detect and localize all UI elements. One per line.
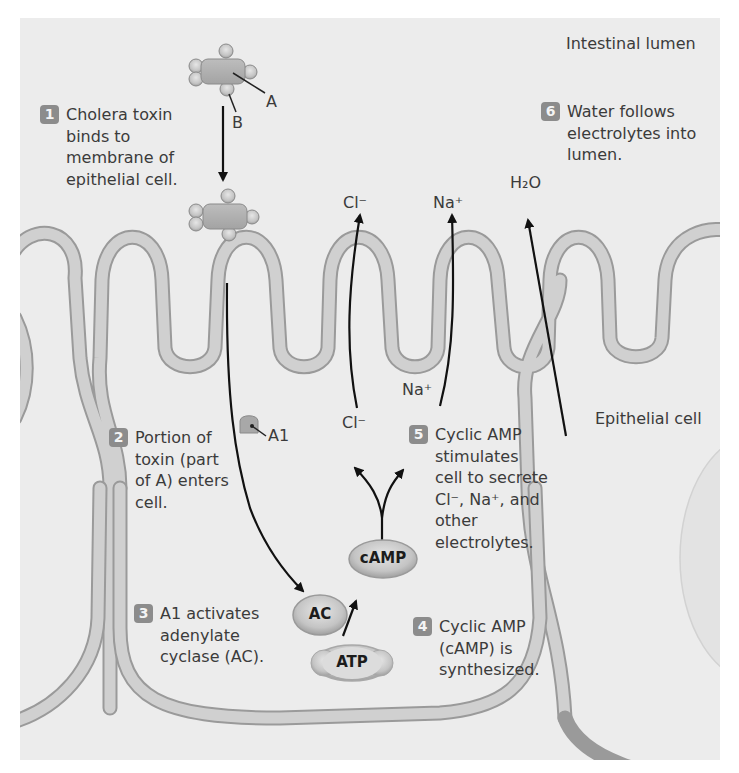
sodium-out-label: Na⁺	[433, 193, 463, 213]
step-3: 3 A1 activates adenylate cyclase (AC).	[134, 603, 284, 668]
cholera-toxin-diagram: Intestinal lumen Epithelial cell A B A1 …	[20, 18, 720, 760]
step-badge-3: 3	[134, 604, 153, 623]
step-text-5: Cyclic AMP stimulates cell to secrete Cl…	[435, 424, 549, 553]
step-badge-1: 1	[40, 105, 59, 124]
epithelial-cell-label: Epithelial cell	[595, 409, 702, 429]
sodium-in-label: Na⁺	[402, 380, 432, 400]
step-1: 1 Cholera toxin binds to membrane of epi…	[40, 104, 180, 190]
nucleus-shape	[680, 433, 720, 683]
step-badge-6: 6	[541, 102, 560, 121]
step-text-2: Portion of toxin (part of A) enters cell…	[135, 427, 229, 513]
step-4: 4 Cyclic AMP (cAMP) is synthesized.	[413, 616, 543, 681]
step-5: 5 Cyclic AMP stimulates cell to secrete …	[409, 424, 549, 553]
water-out-label: H₂O	[510, 173, 541, 193]
step-text-3: A1 activates adenylate cyclase (AC).	[160, 603, 284, 668]
step-badge-5: 5	[409, 425, 428, 444]
step-text-4: Cyclic AMP (cAMP) is synthesized.	[439, 616, 543, 681]
step-badge-2: 2	[109, 428, 128, 447]
intestinal-lumen-label: Intestinal lumen	[566, 34, 696, 54]
camp-label: cAMP	[349, 549, 417, 567]
step-badge-4: 4	[413, 617, 432, 636]
step-text-1: Cholera toxin binds to membrane of epith…	[66, 104, 180, 190]
atp-label: ATP	[322, 653, 382, 671]
chloride-in-label: Cl⁻	[342, 413, 366, 433]
step-2: 2 Portion of toxin (part of A) enters ce…	[109, 427, 229, 513]
chloride-out-label: Cl⁻	[343, 193, 367, 213]
step-6: 6 Water follows electrolytes into lumen.	[541, 101, 701, 166]
a1-fragment	[240, 416, 266, 436]
cholera-toxin-free	[189, 44, 265, 112]
step-text-6: Water follows electrolytes into lumen.	[567, 101, 701, 166]
subunit-a-label: A	[266, 92, 277, 112]
a1-label: A1	[268, 426, 289, 446]
ac-label: AC	[293, 605, 347, 623]
subunit-b-label: B	[232, 113, 243, 133]
